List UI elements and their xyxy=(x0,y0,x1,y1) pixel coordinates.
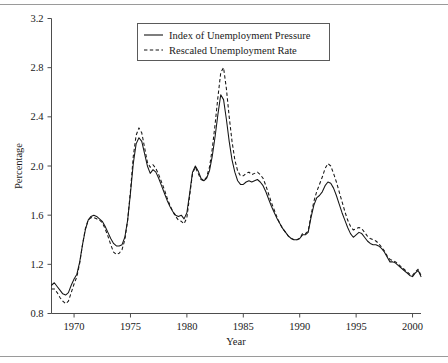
x-axis-title: Year xyxy=(226,336,246,347)
y-tick-label: 1.2 xyxy=(30,259,43,270)
figure-container: 0.81.21.62.02.42.83.2 197019751980198519… xyxy=(0,0,448,363)
y-tick-label: 1.6 xyxy=(30,210,43,221)
y-axis-ticks xyxy=(48,19,52,314)
x-tick-label: 2000 xyxy=(402,321,423,332)
y-tick-label: 3.2 xyxy=(30,13,43,24)
series-line-0 xyxy=(52,95,422,295)
x-tick-label: 1970 xyxy=(64,321,85,332)
legend-label-0: Index of Unemployment Pressure xyxy=(169,30,311,41)
y-tick-label: 2.8 xyxy=(30,62,43,73)
x-axis-ticks xyxy=(74,314,412,318)
y-tick-label: 2.4 xyxy=(30,111,44,122)
x-tick-label: 1995 xyxy=(346,321,367,332)
x-tick-label: 1980 xyxy=(176,321,197,332)
x-axis-tick-labels: 1970197519801985199019952000 xyxy=(64,321,423,332)
series-group xyxy=(52,68,422,304)
series-line-1 xyxy=(52,68,422,304)
line-chart: 0.81.21.62.02.42.83.2 197019751980198519… xyxy=(0,0,448,363)
page-rule-bottom xyxy=(0,356,448,357)
x-tick-label: 1990 xyxy=(289,321,310,332)
chart-legend: Index of Unemployment Pressure Rescaled … xyxy=(138,24,330,61)
x-tick-label: 1985 xyxy=(233,321,254,332)
y-tick-label: 0.8 xyxy=(30,308,43,319)
x-tick-label: 1975 xyxy=(120,321,141,332)
page-rule-top xyxy=(0,4,448,5)
y-axis-tick-labels: 0.81.21.62.02.42.83.2 xyxy=(30,13,44,319)
y-tick-label: 2.0 xyxy=(30,161,43,172)
legend-label-1: Rescaled Unemployment Rate xyxy=(169,45,297,56)
y-axis-title: Percentage xyxy=(13,143,24,189)
